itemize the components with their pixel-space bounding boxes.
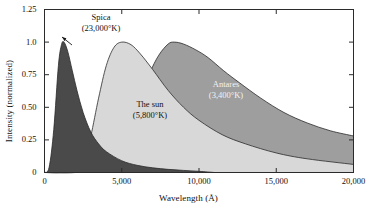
series-label-spica: Spica (23,000°K) — [46, 12, 156, 33]
blackbody-spectrum-chart: Wavelength (Å) Intensity (normalized) 00… — [0, 0, 377, 213]
y-tick-label-2: 0.50 — [0, 102, 37, 112]
x-tick-label-3: 15,000 — [246, 176, 306, 186]
sun-temperature: (5,800°K) — [95, 110, 205, 121]
series-label-antares: Antares (3,400°K) — [171, 79, 281, 100]
sun-name: The sun — [95, 99, 205, 110]
antares-name: Antares — [171, 79, 281, 90]
y-tick-label-5: 1.25 — [0, 4, 37, 14]
x-tick-label-1: 5,000 — [92, 176, 152, 186]
spica-temperature: (23,000°K) — [46, 23, 156, 34]
antares-temperature: (3,400°K) — [171, 90, 281, 101]
x-tick-label-4: 20,000 — [324, 176, 377, 186]
y-tick-label-3: 0.75 — [0, 69, 37, 79]
x-tick-label-2: 10,000 — [169, 176, 229, 186]
spica-name: Spica — [46, 12, 156, 23]
series-label-sun: The sun (5,800°K) — [95, 99, 205, 120]
y-tick-label-1: 0.25 — [0, 134, 37, 144]
x-axis-title: Wavelength (Å) — [0, 193, 377, 203]
y-tick-label-4: 1.0 — [0, 37, 37, 47]
x-tick-label-0: 0 — [15, 176, 75, 186]
